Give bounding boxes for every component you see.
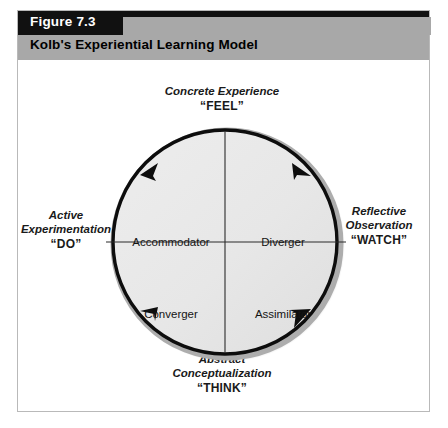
axis-label-active-experimentation: Active Experimentation “DO”: [20, 208, 112, 252]
axis-label-line1: Active: [20, 208, 112, 222]
quadrant-label-converger: Converger: [116, 308, 226, 320]
header-band-tail: [123, 17, 431, 35]
axis-label-line1: Reflective: [333, 204, 425, 218]
axis-label-line1: Concrete Experience: [122, 84, 322, 98]
axis-label-keyword: “THINK”: [122, 381, 322, 396]
axis-label-concrete-experience: Concrete Experience “FEEL”: [122, 84, 322, 114]
figure-number-label: Figure 7.3: [30, 14, 96, 29]
quadrant-label-diverger: Diverger: [228, 236, 338, 248]
diagram-canvas: Concrete Experience “FEEL” Reflective Ob…: [18, 60, 429, 411]
axis-label-keyword: “FEEL”: [122, 99, 322, 114]
axis-label-line2: Observation: [333, 218, 425, 232]
axis-label-reflective-observation: Reflective Observation “WATCH”: [333, 204, 425, 248]
axis-label-keyword: “DO”: [20, 237, 112, 252]
figure-container: Figure 7.3 Kolb's Experiential Learning …: [17, 10, 430, 412]
axis-label-line2: Experimentation: [20, 222, 112, 236]
axis-label-keyword: “WATCH”: [333, 233, 425, 248]
figure-title: Kolb's Experiential Learning Model: [30, 37, 258, 52]
quadrant-label-accommodator: Accommodator: [116, 236, 226, 248]
learning-cycle-wheel: Accommodator Diverger Converger Assimila…: [106, 123, 346, 363]
axis-label-line2: Conceptualization: [122, 366, 322, 380]
quadrant-label-assimilator: Assimilator: [228, 308, 338, 320]
